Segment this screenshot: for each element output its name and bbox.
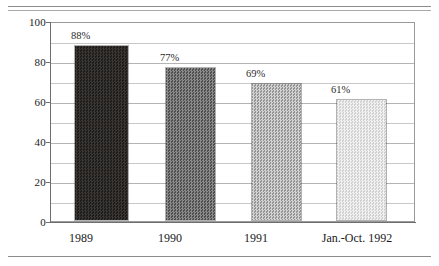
x-label-1990: 1990 [134,231,206,245]
y-tick-mark-60 [46,102,50,103]
value-label-jan-oct-1992: 61% [315,84,366,95]
bar-1989[interactable] [74,45,129,221]
y-tick-mark-40 [46,142,50,143]
bar-fill-1990 [166,68,215,220]
value-label-1989: 88% [53,30,108,41]
x-label-1991: 1991 [220,231,292,245]
value-label-1990: 77% [144,52,195,63]
bar-fill-1989 [75,46,128,220]
bar-jan-oct-1992[interactable] [336,99,387,221]
y-tick-label-100: 100 [4,17,46,28]
bar-1990[interactable] [165,67,216,221]
bar-1991[interactable] [251,83,302,221]
y-tick-label-20: 20 [4,177,46,188]
y-tick-mark-0 [46,222,50,223]
y-tick-mark-100 [46,22,50,23]
gridline-90 [51,43,414,44]
top-rule-outer [8,6,431,7]
plot-area [50,22,415,222]
y-tick-label-80: 80 [4,57,46,68]
y-tick-label-40: 40 [4,137,46,148]
y-axis-spine [50,22,51,223]
y-tick-mark-20 [46,182,50,183]
x-label-jan-oct-1992: Jan.-Oct. 1992 [302,231,412,245]
y-axis-ticks: 100 80 60 40 20 0 [0,22,46,222]
bar-fill-jan-oct-1992 [337,100,386,220]
x-axis-spine [50,222,416,223]
top-rule-inner [8,10,431,11]
y-tick-mark-80 [46,62,50,63]
value-label-1991: 69% [230,68,281,79]
x-label-1989: 1989 [45,231,117,245]
y-tick-label-0: 0 [4,217,46,228]
bar-fill-1991 [252,84,301,220]
y-tick-label-60: 60 [4,97,46,108]
figure-container: 100 80 60 40 20 0 88% 77% 69% 61% 1989 1… [0,0,439,266]
bottom-rule [8,256,431,257]
